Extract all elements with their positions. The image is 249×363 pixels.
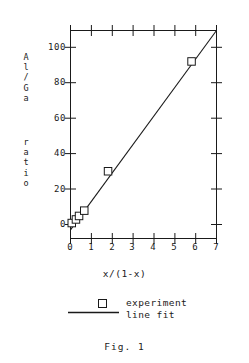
data-point-marker [188, 58, 196, 65]
x-axis-title: x/(1-x) [0, 268, 249, 279]
legend-marker-experiment [99, 300, 107, 308]
figure-container: A l / G a r a t i o 100 80 60 40 20 0 0 … [0, 0, 249, 363]
data-point-marker [104, 168, 112, 176]
legend-symbols [68, 300, 119, 313]
figure-caption: Fig. 1 [0, 341, 249, 352]
data-point-marker [81, 207, 89, 215]
legend-label-experiment: experiment [126, 297, 187, 308]
plot-canvas [0, 0, 249, 363]
experiment-series [68, 58, 195, 227]
legend-label-line-fit: line fit [126, 309, 175, 320]
